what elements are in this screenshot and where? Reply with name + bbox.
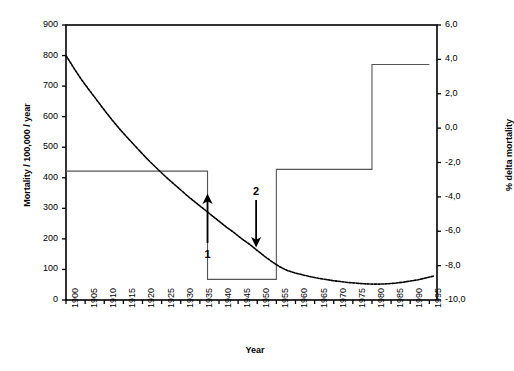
line-series-mortality xyxy=(66,56,433,285)
axis-frame xyxy=(66,25,437,300)
step-series-percent-delta-mortality xyxy=(66,65,429,280)
annotation-label-2: 2 xyxy=(253,185,259,197)
annotation-label-1: 1 xyxy=(204,248,210,260)
annotation-arrows: 12 xyxy=(204,185,259,260)
axis-ticks xyxy=(62,25,441,304)
